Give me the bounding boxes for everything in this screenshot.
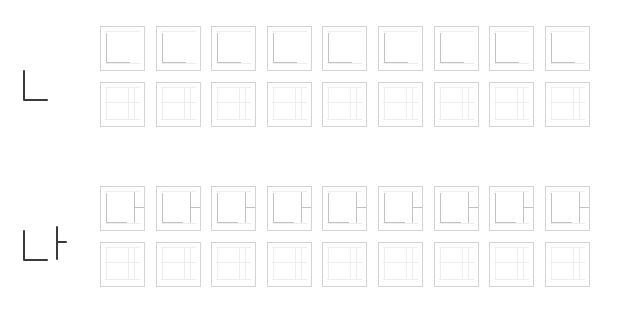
trace-box bbox=[322, 186, 367, 231]
trace-stroke-horizontal bbox=[440, 62, 464, 63]
trace-stroke-vertical bbox=[551, 33, 552, 63]
practice-box[interactable] bbox=[378, 242, 423, 287]
guide-line bbox=[439, 63, 474, 64]
practice-box[interactable] bbox=[100, 82, 145, 127]
guide-line bbox=[106, 87, 107, 120]
guide-line bbox=[184, 247, 185, 280]
guide-line bbox=[245, 87, 246, 120]
trace-stroke-horizontal bbox=[495, 222, 516, 223]
practice-box[interactable] bbox=[322, 82, 367, 127]
trace-stroke-vertical bbox=[217, 193, 218, 223]
trace-box bbox=[489, 186, 534, 231]
practice-box[interactable] bbox=[545, 82, 590, 127]
trace-stroke-vertical bbox=[106, 193, 107, 223]
guide-line bbox=[494, 63, 529, 64]
practice-box[interactable] bbox=[322, 242, 367, 287]
guide-line bbox=[106, 247, 107, 280]
guide-line bbox=[161, 31, 196, 32]
guide-line bbox=[406, 87, 407, 120]
guide-line bbox=[350, 87, 351, 120]
practice-box[interactable] bbox=[211, 242, 256, 287]
practice-box[interactable] bbox=[267, 82, 312, 127]
trace-stroke-vertical bbox=[106, 33, 107, 63]
guide-line bbox=[272, 63, 307, 64]
trace-stroke-horizontal bbox=[440, 222, 461, 223]
guide-line bbox=[239, 87, 240, 120]
practice-box[interactable] bbox=[434, 242, 479, 287]
guide-line bbox=[105, 223, 140, 224]
guide-line bbox=[161, 63, 196, 64]
trace-stroke-horizontal bbox=[273, 62, 297, 63]
trace-box bbox=[434, 26, 479, 71]
trace-stroke-tick bbox=[357, 207, 366, 208]
guide-line bbox=[384, 87, 385, 120]
trace-stroke-horizontal bbox=[217, 62, 241, 63]
guide-line bbox=[523, 87, 524, 120]
trace-box bbox=[545, 26, 590, 71]
guide-line bbox=[190, 247, 191, 280]
guide-line bbox=[128, 87, 129, 120]
trace-stroke-tick bbox=[580, 207, 589, 208]
practice-box[interactable] bbox=[156, 82, 201, 127]
trace-stroke-vertical bbox=[273, 33, 274, 63]
practice-box[interactable] bbox=[378, 82, 423, 127]
guide-line bbox=[551, 87, 552, 120]
guide-line bbox=[579, 87, 580, 120]
guide-line bbox=[272, 223, 307, 224]
guide-line bbox=[350, 247, 351, 280]
practice-box[interactable] bbox=[156, 242, 201, 287]
guide-line bbox=[573, 247, 574, 280]
guide-line bbox=[273, 247, 274, 280]
trace-stroke-horizontal bbox=[328, 222, 349, 223]
guide-line bbox=[301, 87, 302, 120]
guide-line bbox=[327, 31, 362, 32]
guide-line bbox=[327, 63, 362, 64]
stroke-vertical bbox=[23, 70, 25, 100]
guide-line bbox=[495, 87, 496, 120]
guide-line bbox=[161, 223, 196, 224]
guide-line bbox=[383, 223, 418, 224]
trace-stroke-horizontal bbox=[106, 62, 130, 63]
practice-box[interactable] bbox=[211, 82, 256, 127]
guide-line bbox=[550, 63, 585, 64]
guide-line bbox=[245, 247, 246, 280]
guide-line bbox=[216, 63, 251, 64]
guide-line bbox=[184, 87, 185, 120]
trace-stroke-horizontal bbox=[162, 62, 186, 63]
practice-box[interactable] bbox=[434, 82, 479, 127]
practice-box[interactable] bbox=[489, 242, 534, 287]
trace-stroke-tick bbox=[413, 207, 422, 208]
guide-line bbox=[384, 247, 385, 280]
trace-stroke-horizontal bbox=[106, 222, 127, 223]
practice-box[interactable] bbox=[489, 82, 534, 127]
trace-stroke-vertical bbox=[495, 33, 496, 63]
guide-line bbox=[550, 223, 585, 224]
trace-stroke-vertical bbox=[273, 193, 274, 223]
stroke-vertical bbox=[23, 230, 25, 260]
trace-box bbox=[211, 26, 256, 71]
guide-line bbox=[468, 247, 469, 280]
practice-box[interactable] bbox=[100, 242, 145, 287]
trace-box bbox=[378, 26, 423, 71]
guide-line bbox=[328, 247, 329, 280]
trace-box bbox=[267, 186, 312, 231]
guide-line bbox=[190, 87, 191, 120]
trace-stroke-vertical bbox=[440, 33, 441, 63]
stroke-tick bbox=[57, 241, 67, 243]
guide-line bbox=[128, 247, 129, 280]
trace-box bbox=[489, 26, 534, 71]
trace-box bbox=[545, 186, 590, 231]
guide-line bbox=[573, 87, 574, 120]
practice-box[interactable] bbox=[545, 242, 590, 287]
trace-stroke-horizontal bbox=[384, 222, 405, 223]
practice-box[interactable] bbox=[267, 242, 312, 287]
trace-stroke-horizontal bbox=[495, 62, 519, 63]
stroke-horizontal bbox=[23, 99, 48, 101]
guide-line bbox=[295, 87, 296, 120]
trace-stroke-horizontal bbox=[384, 62, 408, 63]
trace-stroke-vertical bbox=[551, 193, 552, 223]
trace-stroke-tick bbox=[302, 207, 311, 208]
guide-line bbox=[356, 87, 357, 120]
trace-stroke-horizontal bbox=[328, 62, 352, 63]
stroke-horizontal bbox=[23, 259, 48, 261]
